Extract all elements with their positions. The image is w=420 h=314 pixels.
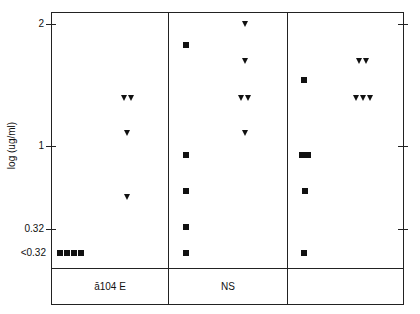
y-tick-label-below: <0.32 bbox=[6, 247, 46, 258]
divider-2 bbox=[287, 12, 288, 304]
tick-right-1 bbox=[398, 146, 408, 147]
triangle-marker bbox=[356, 58, 362, 64]
frame-top bbox=[51, 12, 404, 13]
square-marker bbox=[301, 250, 307, 256]
triangle-marker bbox=[353, 95, 359, 101]
group-label-2: NS bbox=[169, 281, 287, 292]
triangle-marker bbox=[242, 130, 248, 136]
triangle-marker bbox=[363, 58, 369, 64]
square-marker bbox=[305, 152, 311, 158]
triangle-marker bbox=[238, 95, 244, 101]
triangle-marker bbox=[121, 95, 127, 101]
plot-bottom bbox=[51, 268, 404, 269]
divider-1 bbox=[168, 12, 169, 304]
square-marker bbox=[78, 250, 84, 256]
triangle-marker bbox=[242, 58, 248, 64]
tick-1 bbox=[46, 146, 56, 147]
tick-2 bbox=[46, 24, 56, 25]
triangle-marker bbox=[242, 21, 248, 27]
frame-left bbox=[51, 12, 52, 304]
frame-bottom bbox=[51, 304, 404, 305]
triangle-marker bbox=[245, 95, 251, 101]
square-marker bbox=[183, 152, 189, 158]
triangle-marker bbox=[128, 95, 134, 101]
triangle-marker bbox=[124, 194, 130, 200]
square-marker bbox=[64, 250, 70, 256]
triangle-marker bbox=[124, 130, 130, 136]
tick-032 bbox=[46, 229, 56, 230]
tick-right-032 bbox=[398, 229, 408, 230]
square-marker bbox=[183, 224, 189, 230]
triangle-marker bbox=[367, 95, 373, 101]
group-label-1: ā104 E bbox=[52, 281, 168, 292]
square-marker bbox=[71, 250, 77, 256]
square-marker bbox=[183, 42, 189, 48]
y-tick-label-2: 2 bbox=[4, 18, 44, 29]
y-tick-label-1: 1 bbox=[4, 140, 44, 151]
frame-right bbox=[403, 12, 404, 304]
square-marker bbox=[57, 250, 63, 256]
y-tick-label-032: 0.32 bbox=[4, 223, 44, 234]
tick-right-2 bbox=[398, 24, 408, 25]
triangle-marker bbox=[360, 95, 366, 101]
square-marker bbox=[183, 188, 189, 194]
square-marker bbox=[301, 77, 307, 83]
square-marker bbox=[302, 188, 308, 194]
square-marker bbox=[183, 250, 189, 256]
